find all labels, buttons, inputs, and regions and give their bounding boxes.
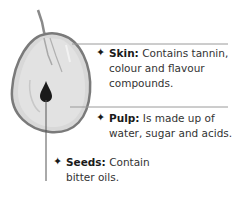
stem-icon bbox=[38, 10, 46, 36]
pulp-term: Pulp: bbox=[109, 112, 140, 124]
pulp-label: Pulp: Is made up of water, sugar and aci… bbox=[109, 111, 241, 141]
bullet-icon: ✦ bbox=[53, 155, 62, 168]
bullet-icon: ✦ bbox=[96, 111, 105, 124]
skin-line-2: colour and flavour bbox=[109, 62, 205, 74]
seeds-term: Seeds: bbox=[66, 156, 106, 168]
skin-line-1: Contains tannin, bbox=[142, 47, 228, 59]
skin-term: Skin: bbox=[109, 47, 139, 59]
skin-label: Skin: Contains tannin, colour and flavou… bbox=[109, 46, 239, 91]
seeds-line-1: Contain bbox=[109, 156, 150, 168]
skin-line-3: compounds. bbox=[109, 77, 173, 89]
seeds-label: Seeds: Contain bitter oils. bbox=[66, 155, 166, 185]
pulp-line-1: Is made up of bbox=[143, 112, 215, 124]
pulp-line-2: water, sugar and acids. bbox=[109, 127, 232, 139]
seeds-line-2: bitter oils. bbox=[66, 171, 119, 183]
grape-anatomy-diagram: ✦ Skin: Contains tannin, colour and flav… bbox=[0, 0, 242, 201]
bullet-icon: ✦ bbox=[96, 46, 105, 59]
